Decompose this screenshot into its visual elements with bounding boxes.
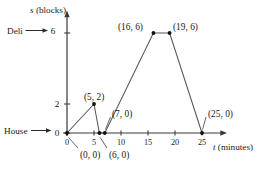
leader-0-0 (69, 138, 79, 149)
point-label-16-6: (16, 6) (118, 22, 143, 33)
data-point-16-6 (152, 31, 156, 35)
x-axis-title-unit: (minutes) (216, 142, 254, 152)
point-label-19-6: (19, 6) (173, 22, 198, 33)
y-tick-label-0: 0 (55, 128, 60, 138)
point-label-7-0: (7, 0) (112, 109, 132, 120)
data-point-6-0 (98, 131, 102, 135)
distance-time-graph: s (blocks) t (minutes) Deli 6 House 0 2 … (0, 0, 267, 172)
point-label-25-0: (25, 0) (208, 109, 233, 120)
deli-label: Deli (7, 26, 23, 36)
data-point-7-0 (103, 131, 107, 135)
y-axis-title: s (blocks) (30, 5, 66, 15)
x-tick-label-20: 20 (171, 138, 179, 147)
point-label-6-0: (6, 0) (109, 150, 129, 161)
data-point-0-0 (65, 131, 69, 135)
point-label-5-2: (5, 2) (84, 92, 104, 103)
x-tick-label-10: 10 (117, 138, 125, 147)
x-tick-label-25: 25 (198, 138, 206, 147)
house-arrow-head (46, 128, 52, 132)
y-tick-label-6: 6 (51, 26, 56, 36)
graph-figure: s (blocks) t (minutes) Deli 6 House 0 2 … (0, 0, 267, 172)
data-point-19-6 (168, 31, 172, 35)
deli-arrow-head (43, 28, 49, 32)
leader-25-0 (203, 117, 206, 130)
leader-6-0 (100, 138, 107, 149)
distance-polyline (67, 33, 202, 133)
axes-group (63, 11, 227, 137)
callout-arrows-group (26, 28, 52, 132)
house-label: House (4, 126, 27, 136)
point-label-0-0: (0, 0) (80, 150, 100, 161)
data-point-5-2 (92, 102, 96, 106)
data-series-group (65, 31, 204, 135)
x-tick-label-0: 0 (65, 138, 69, 147)
data-point-25-0 (200, 131, 204, 135)
x-tick-label-15: 15 (144, 138, 152, 147)
y-axis-title-unit: (blocks) (34, 5, 66, 15)
x-axis-title: t (minutes) (213, 142, 253, 152)
x-tick-label-5: 5 (92, 138, 96, 147)
y-tick-label-2: 2 (55, 99, 60, 109)
x-axis-arrowhead (220, 130, 227, 135)
